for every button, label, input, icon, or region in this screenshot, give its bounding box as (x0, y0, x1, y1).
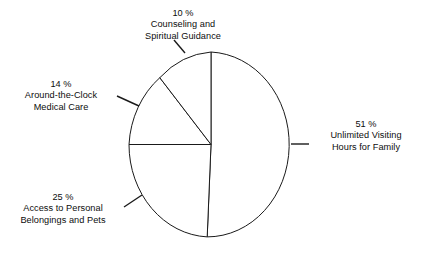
pie-label-percent: 25 % (4, 192, 122, 203)
leader-line-medical (117, 96, 139, 106)
pie-label-percent: 14 % (6, 79, 116, 90)
pie-label-text-line-1: Around-the-Clock (6, 90, 116, 101)
pie-label-counseling-and-spiritual-guidance: 10 % Counseling and Spiritual Guidance (108, 8, 258, 42)
pie-label-access-to-personal-belongings-and-pets: 25 % Access to Personal Belongings and P… (4, 192, 122, 226)
pie-label-text-line-1: Counseling and (108, 19, 258, 30)
pie-label-text-line-2: Medical Care (6, 102, 116, 113)
pie-slice-unlimited-visiting[interactable] (207, 52, 289, 237)
pie-label-text-line-2: Spiritual Guidance (108, 31, 258, 42)
pie-label-percent: 10 % (108, 8, 258, 19)
pie-label-around-the-clock-medical-care: 14 % Around-the-Clock Medical Care (6, 79, 116, 113)
pie-label-unlimited-visiting-hours-for-family: 51 % Unlimited Visiting Hours for Family (312, 119, 420, 153)
leader-line-belongings (124, 195, 142, 207)
pie-label-text-line-2: Belongings and Pets (4, 215, 122, 226)
pie-chart-figure: 10 % Counseling and Spiritual Guidance 1… (0, 0, 424, 254)
pie-label-text-line-1: Access to Personal (4, 203, 122, 214)
pie-slice-access-to-personal-belongings[interactable] (129, 145, 211, 237)
pie-label-text-line-2: Hours for Family (312, 142, 420, 153)
pie-label-text-line-1: Unlimited Visiting (312, 130, 420, 141)
pie-label-percent: 51 % (312, 119, 420, 130)
